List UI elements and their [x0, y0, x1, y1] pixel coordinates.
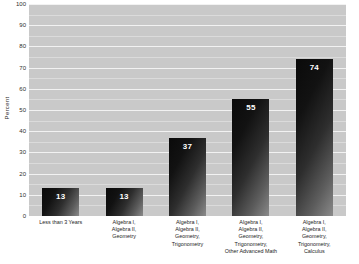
x-axis-label-line: Algebra I,	[276, 219, 352, 226]
y-axis-tick: 50	[19, 107, 26, 113]
y-axis-tick: 100	[16, 1, 26, 7]
bar-chart: Percent 0102030405060708090100 131337557…	[0, 0, 359, 264]
x-axis-label-line: Algebra II,	[276, 226, 352, 233]
bar-value-label: 37	[169, 142, 206, 151]
y-axis-tick: 20	[19, 171, 26, 177]
bar: 13	[42, 188, 79, 216]
bar: 55	[232, 99, 269, 216]
y-axis-tick: 30	[19, 149, 26, 155]
bars-layer: 1313375574	[29, 4, 346, 216]
y-axis-tick: 40	[19, 128, 26, 134]
bar: 37	[169, 138, 206, 216]
x-axis-category-labels: Less than 3 YearsAlgebra I,Algebra II,Ge…	[29, 219, 346, 264]
x-axis-category-label: Algebra I,Algebra II,Geometry,Trigonomet…	[276, 219, 352, 255]
x-axis-label-line: Geometry,	[276, 233, 352, 240]
y-axis-tick: 60	[19, 86, 26, 92]
y-axis-tick: 80	[19, 43, 26, 49]
y-axis-tick: 70	[19, 65, 26, 71]
y-axis-tick: 10	[19, 192, 26, 198]
bar-value-label: 13	[42, 192, 79, 201]
bar-value-label: 13	[106, 192, 143, 201]
bar-value-label: 55	[232, 103, 269, 112]
y-axis-title-text: Percent	[4, 97, 10, 120]
bar: 74	[296, 59, 333, 216]
y-axis-tick: 90	[19, 22, 26, 28]
bar-value-label: 74	[296, 63, 333, 72]
x-axis-label-line: Calculus	[276, 248, 352, 255]
plot-area: 1313375574	[29, 4, 346, 216]
bar: 13	[106, 188, 143, 216]
y-axis-tick-labels: 0102030405060708090100	[12, 0, 28, 216]
x-axis-label-line: Trigonometry,	[276, 241, 352, 248]
